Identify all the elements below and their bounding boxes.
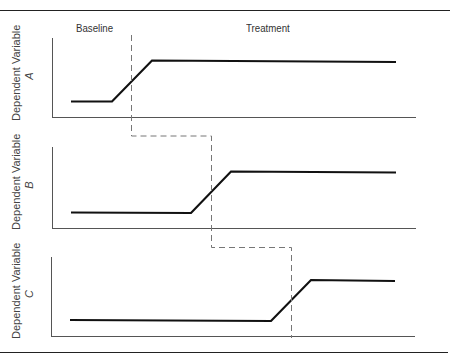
panel-b-data-line <box>71 172 396 214</box>
ylabel-var: A <box>23 31 36 121</box>
ylabel-var: B <box>23 140 36 230</box>
ylabel-text: Dependent Variable <box>10 243 22 339</box>
ylabel-text: Dependent Variable <box>10 25 22 121</box>
panel-a-ylabel: Dependent Variable A <box>10 31 36 121</box>
panel-c-data-line <box>70 280 395 321</box>
ylabel-var: C <box>23 249 36 339</box>
ylabel-text: Dependent Variable <box>10 134 22 230</box>
panel-b-axes <box>52 147 416 229</box>
panel-c-axes <box>51 257 415 337</box>
panel-a-data-line <box>71 61 396 102</box>
panel-b-ylabel: Dependent Variable B <box>10 140 36 230</box>
treatment-label: Treatment <box>246 22 290 34</box>
baseline-label: Baseline <box>76 22 113 34</box>
panel-c-ylabel: Dependent Variable C <box>10 249 36 339</box>
phase-change-line <box>132 35 292 338</box>
multiple-baseline-diagram <box>0 0 459 362</box>
panel-a-axes <box>52 38 416 118</box>
